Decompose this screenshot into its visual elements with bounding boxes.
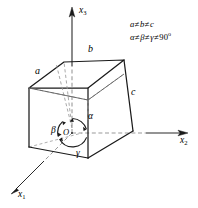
cond2-value: 90 (159, 32, 168, 42)
interior-edge-back-right (88, 74, 124, 100)
origin-label: O (63, 128, 69, 137)
axis-label-x3: x3 (79, 6, 87, 16)
angle-arc-gamma (60, 137, 87, 146)
angle-arc-alpha (73, 119, 87, 130)
edge-label-a: a (35, 66, 40, 76)
axis-x1-solid-segment (16, 161, 44, 189)
axis-label-x2: x2 (180, 136, 188, 146)
cond1-c: c (150, 19, 154, 29)
degree-symbol: o (168, 31, 171, 37)
condition-line-1: a≠b≠c (130, 19, 154, 30)
condition-line-2: α≠β≠γ≠90o (130, 31, 171, 43)
axis-label-x1: x1 (18, 190, 26, 200)
angle-arrowhead-beta-end (62, 121, 66, 125)
cond2-alpha: α (130, 32, 135, 42)
interior-edge-back-top (29, 88, 88, 100)
angle-label-gamma: γ (76, 149, 80, 159)
edge-label-b: b (88, 44, 93, 54)
axis-x1-group (11, 133, 72, 194)
angle-label-alpha: α (88, 112, 93, 122)
cond2-beta: β (140, 32, 144, 42)
edge-label-c: c (131, 87, 135, 97)
origin-marker (71, 132, 73, 134)
angle-arrowhead-beta-start (57, 133, 61, 137)
triclinic-unit-cell-figure: x3 x2 x1 a b c α β γ O a≠b≠c α≠β≠γ≠90o (0, 0, 198, 208)
axis-x1-dashed-segment (44, 133, 72, 161)
angle-label-beta: β (51, 126, 56, 136)
parallelepiped-edges (29, 60, 133, 158)
construction-lines-group (29, 62, 124, 128)
cell-edge-bottom-right (88, 131, 133, 158)
